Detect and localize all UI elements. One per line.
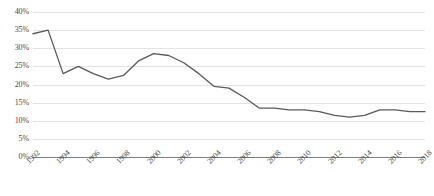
series-line-1: [33, 30, 425, 117]
